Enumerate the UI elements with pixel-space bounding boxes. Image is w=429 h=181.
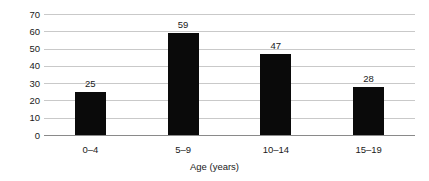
plot-area: 25594728 <box>44 14 415 135</box>
y-axis-tick-label: 60 <box>14 26 40 37</box>
bar-value-label: 59 <box>178 19 189 30</box>
x-axis-title: Age (years) <box>0 161 429 172</box>
gridline <box>44 14 415 15</box>
gridline <box>44 66 415 67</box>
bar-value-label: 28 <box>363 73 374 84</box>
y-axis-tick-label: 50 <box>14 43 40 54</box>
y-axis-tick-label: 40 <box>14 60 40 71</box>
x-axis-tick-label: 10–14 <box>263 144 289 155</box>
bar <box>75 92 106 135</box>
x-axis-tick-label: 0–4 <box>82 144 98 155</box>
bar <box>353 87 384 135</box>
y-axis-tick-label: 0 <box>14 130 40 141</box>
bar-value-label: 25 <box>85 78 96 89</box>
bar-chart: 010203040506070 25594728 Age (years) 0–4… <box>0 0 429 181</box>
x-axis-tick-label: 15–19 <box>355 144 381 155</box>
y-axis-tick-label: 10 <box>14 112 40 123</box>
bar-value-label: 47 <box>271 40 282 51</box>
gridline <box>44 83 415 84</box>
y-axis-tick-label: 20 <box>14 95 40 106</box>
y-axis-tick-label: 70 <box>14 9 40 20</box>
y-axis: 010203040506070 <box>10 14 40 135</box>
x-axis-tick-label: 5–9 <box>175 144 191 155</box>
y-axis-tick-label: 30 <box>14 78 40 89</box>
x-axis-line <box>44 135 415 136</box>
gridline <box>44 49 415 50</box>
gridline <box>44 31 415 32</box>
bar <box>260 54 291 135</box>
bar <box>168 33 199 135</box>
